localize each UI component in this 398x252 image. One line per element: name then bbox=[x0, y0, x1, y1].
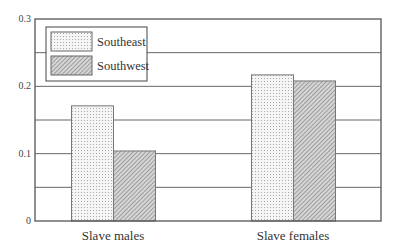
bar-chart: 00.10.20.3 Slave malesSlave females Sout… bbox=[0, 0, 398, 252]
x-category-labels: Slave malesSlave females bbox=[82, 228, 330, 243]
bar-southwest-slave-males bbox=[114, 151, 156, 221]
legend-label-southeast: Southeast bbox=[97, 35, 146, 49]
bar-southeast-slave-males bbox=[72, 106, 114, 221]
legend-swatch-southwest bbox=[51, 56, 92, 75]
x-category-label: Slave females bbox=[257, 228, 330, 243]
y-tick-label: 0 bbox=[26, 215, 31, 226]
y-tick-label: 0.1 bbox=[19, 148, 32, 159]
y-tick-label: 0.2 bbox=[19, 80, 32, 91]
legend-swatch-southeast bbox=[51, 32, 92, 51]
bar-southeast-slave-females bbox=[252, 75, 294, 221]
y-tick-label: 0.3 bbox=[19, 13, 32, 24]
legend-label-southwest: Southwest bbox=[97, 59, 150, 73]
legend: SoutheastSouthwest bbox=[46, 27, 150, 81]
bars bbox=[72, 75, 336, 221]
x-category-label: Slave males bbox=[82, 228, 144, 243]
y-tick-labels: 00.10.20.3 bbox=[19, 13, 32, 226]
bar-southwest-slave-females bbox=[294, 81, 336, 221]
